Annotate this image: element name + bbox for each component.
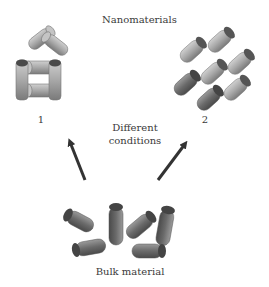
rod (16, 60, 28, 101)
rod (171, 68, 203, 98)
diagram-canvas (0, 0, 269, 287)
rod (71, 238, 107, 258)
arrow-to-structure-2 (158, 144, 185, 180)
rod (155, 205, 176, 247)
rod (198, 57, 230, 87)
rod (177, 35, 209, 65)
rod (124, 209, 159, 242)
rod (205, 25, 237, 55)
rod (49, 60, 61, 101)
rod (194, 83, 226, 113)
rod (61, 207, 96, 234)
bulk-material (61, 203, 175, 258)
rod (225, 47, 257, 77)
structure-1 (16, 24, 70, 100)
rod (109, 203, 123, 245)
arrow-to-structure-1 (70, 142, 85, 180)
rod (132, 244, 166, 258)
rod (221, 73, 253, 103)
structure-2 (171, 25, 257, 113)
